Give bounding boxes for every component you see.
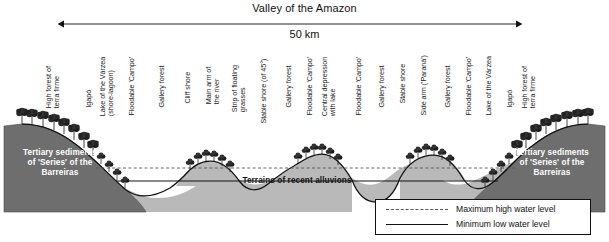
legend-item-min-low-water: Minimum low water level <box>376 217 590 232</box>
legend-label: Minimum low water level <box>456 218 550 231</box>
geology-caption-line: Tertiary sediments <box>8 148 112 158</box>
geology-caption-line: Barreiras <box>500 168 604 178</box>
geology-caption-line: Tertiary sediments <box>500 148 604 158</box>
geology-caption-line: Barreiras <box>8 168 112 178</box>
amazon-valley-cross-section: Valley of the Amazon 50 km High forest o… <box>0 0 609 242</box>
geology-caption-alluvions: Terrains of recent alluvions <box>222 176 372 186</box>
legend-box: Maximum high water level Minimum low wat… <box>375 199 591 235</box>
geology-caption-line: of 'Series' of the <box>500 158 604 168</box>
geology-caption-line: Terrains of recent alluvions <box>222 176 372 186</box>
geology-caption-tertiary-right: Tertiary sediments of 'Series' of the Ba… <box>500 148 604 178</box>
geology-caption-line: of 'Series' of the <box>8 158 112 168</box>
geology-caption-tertiary-left: Tertiary sediments of 'Series' of the Ba… <box>8 148 112 178</box>
legend-swatch-solid <box>386 224 448 226</box>
legend-label: Maximum high water level <box>456 203 555 216</box>
legend-swatch-dashed <box>386 209 448 211</box>
legend-item-max-high-water: Maximum high water level <box>376 202 590 217</box>
